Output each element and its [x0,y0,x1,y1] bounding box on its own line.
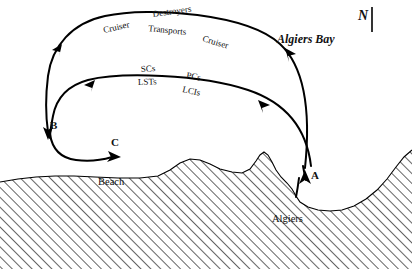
inner-route-arrow-right [258,100,270,113]
point-a-stroke-tail [296,178,299,197]
beach-route-path [50,134,112,161]
label-algiers-bay: Algiers Bay [276,32,335,46]
point-label-c: C [111,136,119,148]
map-figure: Destroyers Cruiser Transports Cruiser SC… [0,0,412,269]
label-lcis: LCIs [182,84,202,98]
land-hatch-fill [0,140,412,269]
beach-route-arrow-c [107,151,121,162]
label-cruiser-right: Cruiser [201,33,229,50]
label-algiers: Algiers [272,213,303,224]
label-cruiser-left: Cruiser [102,19,130,35]
point-a-arrival [296,166,311,197]
north-label: N [357,8,369,23]
inner-route-arrow-left [84,80,95,92]
point-a-arrow [299,170,311,184]
label-pcs: PCs [186,70,203,82]
label-transports: Transports [148,23,188,37]
inner-route-path [50,75,311,166]
label-destroyers: Destroyers [152,4,192,19]
outer-route-labels: Destroyers Cruiser Transports Cruiser [102,4,229,51]
label-beach: Beach [98,176,125,187]
inner-route-labels: SCs LSTs PCs LCIs [138,63,202,98]
point-label-b: B [50,119,58,131]
north-indicator: N [357,7,372,32]
inner-convoy-route [50,75,311,166]
map-canvas: Destroyers Cruiser Transports Cruiser SC… [0,0,412,269]
point-label-a: A [311,169,319,181]
land-mass [0,140,412,269]
label-scs: SCs [140,63,156,74]
label-lsts: LSTs [138,76,158,87]
outer-route-arrow-right [285,48,296,62]
